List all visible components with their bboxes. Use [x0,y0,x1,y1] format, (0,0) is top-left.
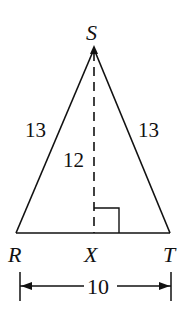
arrowhead-right-icon [159,282,170,290]
vertex-label-R: R [7,242,22,267]
vertex-label-X: X [83,242,99,267]
side-label-SX: 12 [63,148,84,172]
side-label-SR: 13 [25,118,46,142]
right-angle-marker [94,208,119,233]
vertex-label-S: S [86,20,97,45]
side-label-ST: 13 [138,118,159,142]
side-label-RT: 10 [87,274,109,299]
vertex-label-T: T [163,242,177,267]
arrowhead-left-icon [21,282,32,290]
triangle-diagram: S R X T 13 13 12 10 [0,0,189,323]
